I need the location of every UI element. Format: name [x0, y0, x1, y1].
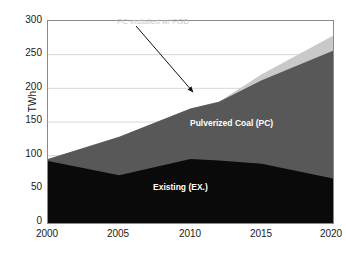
chart-container: TWh 300 250 200 150 100 50 0 Pulverized …	[0, 0, 346, 254]
y-tick-0: 0	[14, 216, 42, 226]
x-tick-2015: 2015	[239, 228, 283, 239]
y-axis-tick-labels: 300 250 200 150 100 50 0	[12, 0, 42, 254]
y-tick-100: 100	[14, 149, 42, 159]
y-tick-200: 200	[14, 82, 42, 92]
plot-area: Pulverized Coal (PC) Existing (EX.)	[47, 20, 334, 224]
x-tick-2005: 2005	[96, 228, 140, 239]
y-tick-250: 250	[14, 48, 42, 58]
y-tick-50: 50	[14, 182, 42, 192]
annotation-label-fgd: PC installed w/ FGD	[117, 17, 189, 26]
y-tick-150: 150	[14, 115, 42, 125]
x-tick-2000: 2000	[25, 228, 69, 239]
x-tick-2010: 2010	[168, 228, 212, 239]
y-tick-300: 300	[14, 15, 42, 25]
series-label-existing: Existing (EX.)	[153, 182, 208, 192]
series-label-pulverized-coal: Pulverized Coal (PC)	[190, 118, 273, 128]
x-tick-2020: 2020	[309, 228, 346, 239]
